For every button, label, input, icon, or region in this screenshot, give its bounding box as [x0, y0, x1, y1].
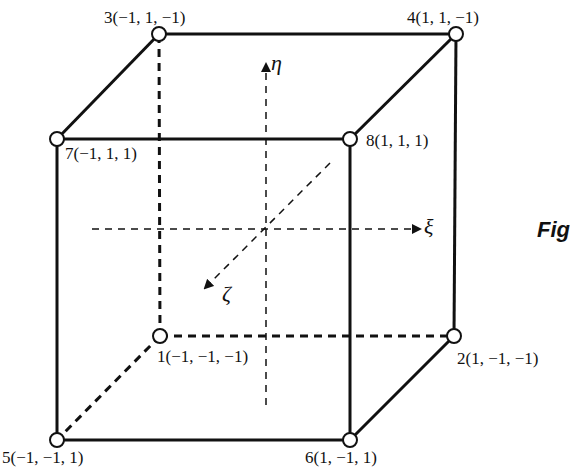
zeta-axis [205, 163, 330, 288]
node-4 [449, 27, 463, 41]
edge-6-2 [350, 336, 454, 440]
node-label-1: 1(−1, −1, −1) [157, 348, 248, 365]
node-3 [152, 27, 166, 41]
node-label-6: 6(1, −1, 1) [305, 449, 377, 466]
node-label-4: 4(1, 1, −1) [407, 9, 479, 26]
eta-label: η [271, 52, 282, 74]
node-7 [50, 132, 64, 146]
node-label-2: 2(1, −1, −1) [457, 350, 539, 367]
axes [92, 64, 420, 405]
node-5 [50, 433, 64, 447]
edge-4-2 [454, 34, 456, 336]
xi-label: ξ [424, 216, 433, 238]
node-8 [343, 132, 357, 146]
node-2 [447, 329, 461, 343]
node-label-3: 3(−1, 1, −1) [104, 9, 186, 26]
edge-3-1 [159, 35, 160, 336]
edge-4-8 [350, 34, 456, 139]
node-label-7: 7(−1, 1, 1) [65, 145, 137, 162]
node-label-8: 8(1, 1, 1) [366, 132, 428, 149]
node-label-5: 5(−1, −1, 1) [2, 449, 84, 466]
node-1 [153, 329, 167, 343]
zeta-label: ζ [222, 283, 231, 305]
node-6 [343, 433, 357, 447]
figure-caption: Fig [537, 219, 570, 241]
edge-3-7 [57, 34, 159, 139]
edge-1-5 [57, 336, 160, 440]
